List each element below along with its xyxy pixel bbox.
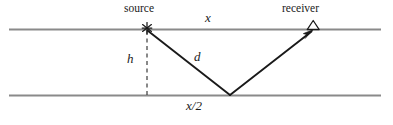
downgoing-ray-line [148,31,231,96]
raypath-length-label: d [194,50,201,63]
depth-label: h [127,52,134,65]
upgoing-ray-line [230,32,312,96]
source-label: source [124,3,154,15]
receiver-marker-icon [307,21,319,30]
receiver-label: receiver [282,3,319,15]
half-offset-label: x/2 [186,99,202,112]
offset-label: x [205,11,211,24]
raypath-diagram: source receiver x d h x/2 [0,0,393,125]
